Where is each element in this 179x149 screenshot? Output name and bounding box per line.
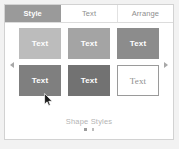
tab-arrange-label: Arrange — [132, 9, 159, 18]
swatch-label: Text — [130, 76, 147, 86]
tab-text-label: Text — [82, 9, 96, 18]
gallery-prev-button[interactable] — [7, 59, 17, 71]
shape-styles-gallery: Text Text Text Text Text Text — [5, 23, 173, 119]
panel-tab-bar: Style Text Arrange — [5, 5, 173, 23]
tab-style[interactable]: Style — [5, 5, 61, 22]
shape-style-swatch[interactable]: Text — [117, 28, 159, 59]
chevron-left-icon — [10, 62, 14, 68]
swatch-label: Text — [81, 76, 98, 85]
swatch-label: Text — [32, 39, 49, 48]
tab-style-label: Style — [23, 9, 41, 18]
gallery-page-dots — [5, 128, 173, 131]
shape-style-swatch[interactable]: Text — [68, 28, 110, 59]
gallery-next-button[interactable] — [161, 59, 171, 71]
chevron-right-icon — [164, 62, 168, 68]
page-dot[interactable] — [92, 128, 95, 131]
format-panel: Style Text Arrange Text Text Text — [4, 4, 174, 140]
swatch-label: Text — [130, 39, 147, 48]
shape-style-swatch[interactable]: Text — [19, 65, 61, 96]
gallery-title: Shape Styles — [5, 117, 173, 126]
gallery-footer: Shape Styles — [5, 117, 173, 139]
swatch-label: Text — [81, 39, 98, 48]
tab-arrange[interactable]: Arrange — [118, 5, 173, 22]
page-dot[interactable] — [84, 128, 87, 131]
shape-style-swatch[interactable]: Text — [19, 28, 61, 59]
shape-style-swatch-grid: Text Text Text Text Text Text — [19, 28, 161, 96]
shape-style-swatch[interactable]: Text — [117, 65, 159, 96]
tab-text[interactable]: Text — [61, 5, 117, 22]
swatch-label: Text — [32, 76, 49, 85]
shape-style-swatch[interactable]: Text — [68, 65, 110, 96]
